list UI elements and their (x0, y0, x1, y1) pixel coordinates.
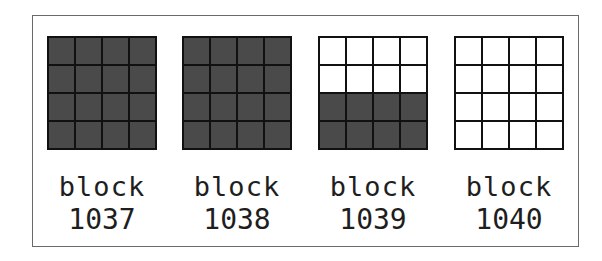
filled-cell (76, 66, 101, 92)
block-number-label: 1037 (37, 203, 167, 236)
empty-cell (347, 66, 372, 92)
empty-cell (483, 38, 508, 64)
filled-cell (130, 94, 155, 120)
filled-cell (130, 66, 155, 92)
empty-cell (374, 66, 399, 92)
block-grid (182, 36, 292, 150)
block-number-label: 1040 (444, 203, 574, 236)
empty-cell (401, 66, 426, 92)
empty-cell (374, 38, 399, 64)
block-1040: block 1040 (454, 36, 566, 150)
filled-cell (184, 66, 209, 92)
filled-cell (374, 122, 399, 148)
block-1037: block 1037 (47, 36, 159, 150)
empty-cell (483, 94, 508, 120)
filled-cell (184, 122, 209, 148)
filled-cell (49, 66, 74, 92)
filled-cell (320, 122, 345, 148)
filled-cell (211, 38, 236, 64)
filled-cell (103, 38, 128, 64)
filled-cell (211, 94, 236, 120)
empty-cell (510, 66, 535, 92)
block-grid (318, 36, 428, 150)
filled-cell (374, 94, 399, 120)
filled-cell (211, 122, 236, 148)
block-number-label: 1038 (172, 203, 302, 236)
empty-cell (456, 94, 481, 120)
empty-cell (483, 122, 508, 148)
empty-cell (510, 38, 535, 64)
block-word-label: block (37, 171, 167, 202)
empty-cell (510, 122, 535, 148)
empty-cell (456, 122, 481, 148)
filled-cell (211, 66, 236, 92)
filled-cell (184, 38, 209, 64)
filled-cell (76, 94, 101, 120)
filled-cell (49, 94, 74, 120)
block-1039: block 1039 (318, 36, 430, 150)
block-number-label: 1039 (308, 203, 438, 236)
filled-cell (130, 38, 155, 64)
empty-cell (401, 38, 426, 64)
filled-cell (401, 94, 426, 120)
filled-cell (265, 66, 290, 92)
filled-cell (184, 94, 209, 120)
block-word-label: block (308, 171, 438, 202)
filled-cell (103, 122, 128, 148)
empty-cell (456, 38, 481, 64)
block-grid (47, 36, 157, 150)
filled-cell (238, 38, 263, 64)
filled-cell (76, 38, 101, 64)
empty-cell (537, 66, 562, 92)
filled-cell (103, 66, 128, 92)
filled-cell (49, 122, 74, 148)
filled-cell (76, 122, 101, 148)
filled-cell (238, 94, 263, 120)
filled-cell (238, 122, 263, 148)
filled-cell (265, 122, 290, 148)
filled-cell (49, 38, 74, 64)
block-1038: block 1038 (182, 36, 294, 150)
filled-cell (103, 94, 128, 120)
empty-cell (320, 66, 345, 92)
empty-cell (347, 38, 372, 64)
filled-cell (347, 94, 372, 120)
empty-cell (510, 94, 535, 120)
empty-cell (483, 66, 508, 92)
filled-cell (265, 38, 290, 64)
block-word-label: block (444, 171, 574, 202)
empty-cell (456, 66, 481, 92)
block-word-label: block (172, 171, 302, 202)
empty-cell (537, 38, 562, 64)
block-grid (454, 36, 564, 150)
empty-cell (320, 38, 345, 64)
filled-cell (238, 66, 263, 92)
filled-cell (401, 122, 426, 148)
filled-cell (265, 94, 290, 120)
filled-cell (347, 122, 372, 148)
filled-cell (320, 94, 345, 120)
filled-cell (130, 122, 155, 148)
empty-cell (537, 94, 562, 120)
empty-cell (537, 122, 562, 148)
